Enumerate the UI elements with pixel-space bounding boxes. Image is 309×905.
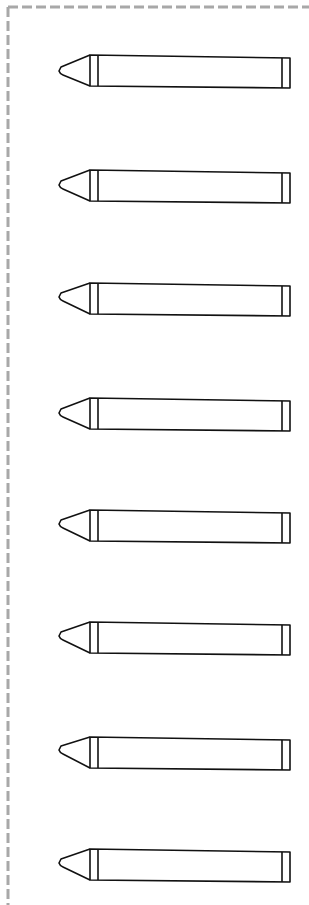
crayon-outline-6 — [59, 622, 290, 655]
crayon-outline-2 — [59, 170, 290, 203]
crayon-outline-5 — [59, 510, 290, 543]
crayon-outline-7 — [59, 737, 290, 770]
crayon-outline-1 — [59, 55, 290, 88]
crayon-outline-3 — [59, 283, 290, 316]
worksheet-page — [0, 0, 309, 905]
crayon-outline-4 — [59, 398, 290, 431]
crayon-outline-8 — [59, 849, 290, 882]
